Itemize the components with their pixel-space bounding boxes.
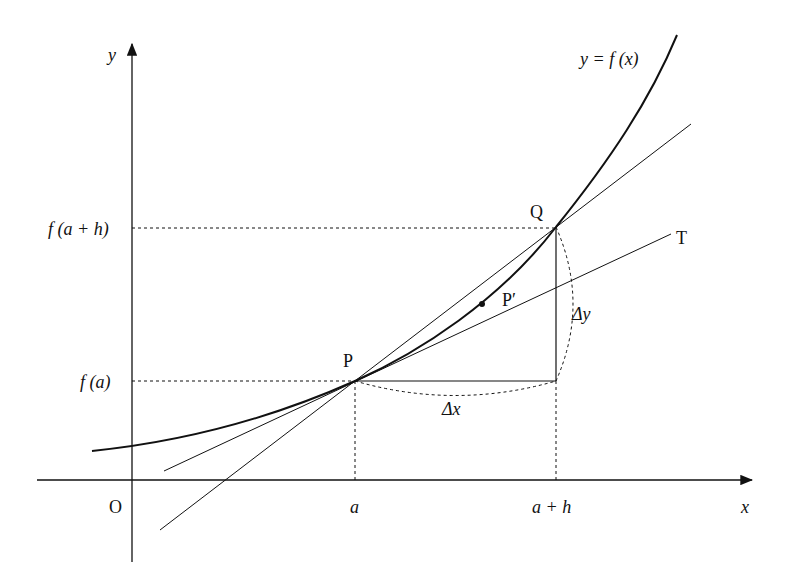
fah-label: f (a + h) <box>48 220 109 238</box>
p-label: P <box>343 352 353 370</box>
t-label: T <box>676 229 687 247</box>
dx-brace <box>355 381 556 396</box>
y-axis-label: y <box>108 46 116 64</box>
fa-label: f (a) <box>80 373 111 391</box>
pprime-label: P′ <box>502 291 516 309</box>
origin-label: O <box>109 498 122 516</box>
a-label: a <box>350 498 359 516</box>
curve-label: y = f (x) <box>580 50 639 68</box>
aph-label: a + h <box>532 498 571 516</box>
dx-label: Δx <box>442 400 461 418</box>
q-label: Q <box>530 203 543 221</box>
dy-brace <box>556 227 573 381</box>
tangent-line <box>164 234 671 471</box>
x-axis-label: x <box>741 498 749 516</box>
dy-label: Δy <box>572 305 591 323</box>
secant-line <box>160 124 691 530</box>
point-pprime <box>479 301 485 307</box>
